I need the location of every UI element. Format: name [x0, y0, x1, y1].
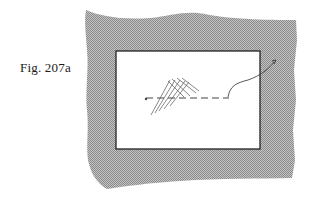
window-rectangle: [116, 51, 260, 149]
sewing-diagram: [0, 0, 312, 200]
stitch-start-dot: [145, 98, 147, 100]
